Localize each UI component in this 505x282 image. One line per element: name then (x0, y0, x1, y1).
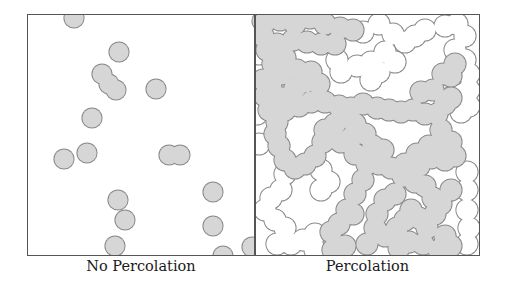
disc-field-percolation (255, 14, 480, 256)
panel-percolation (255, 14, 480, 256)
panel-no-percolation (27, 14, 255, 256)
caption-percolation: Percolation (255, 258, 480, 274)
disc-field-no-percolation (27, 14, 255, 256)
caption-no-percolation: No Percolation (27, 258, 255, 274)
